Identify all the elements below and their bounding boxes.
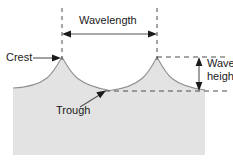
water-body-shape	[13, 57, 205, 155]
trough-label: Trough	[56, 104, 90, 117]
wave-height-label: Wave height	[207, 57, 233, 82]
wave-height-label-line2: height	[207, 70, 233, 83]
wavelength-arrowhead-left	[62, 31, 71, 38]
crest-label: Crest	[6, 51, 32, 64]
waveheight-arrowhead-top	[196, 57, 203, 66]
wave-diagram-figure: Crest Wavelength Trough Wave height	[0, 0, 233, 163]
wavelength-label: Wavelength	[79, 14, 137, 27]
wavelength-arrowhead-right	[148, 31, 157, 38]
wave-height-label-line1: Wave	[207, 57, 233, 70]
